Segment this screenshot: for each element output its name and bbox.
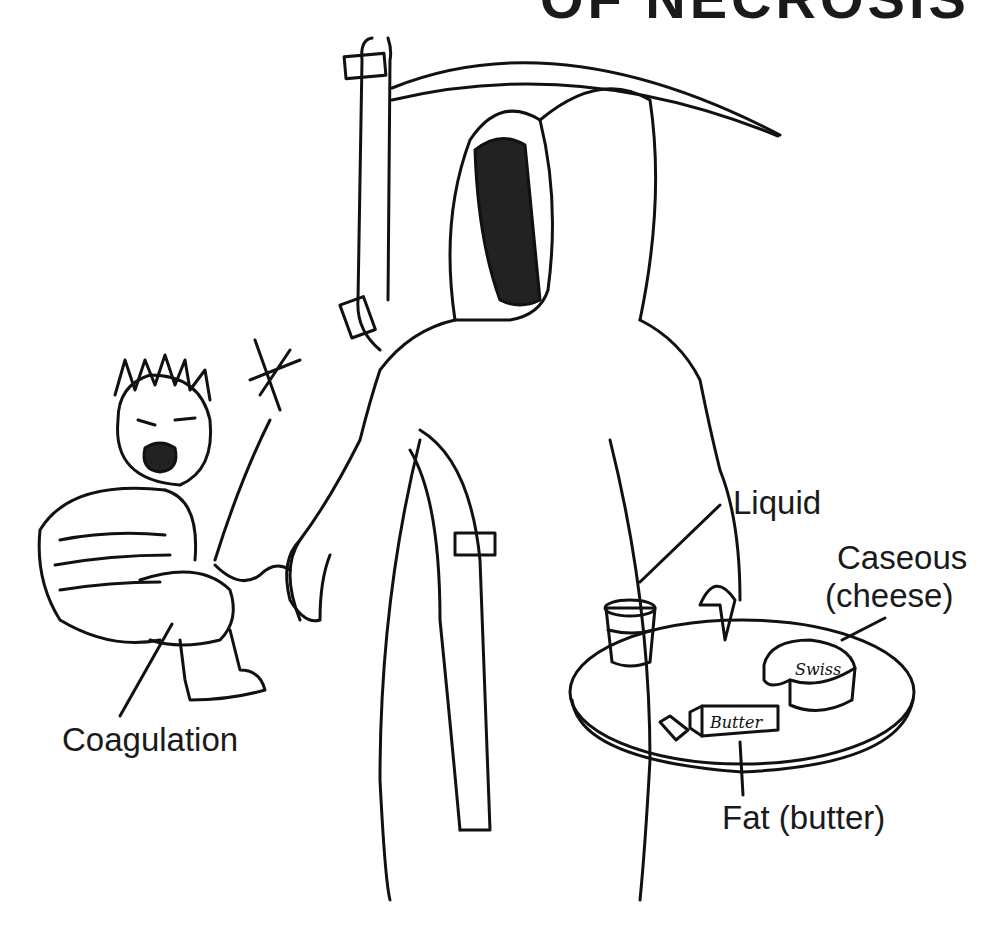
label-coagulation: Coagulation: [62, 722, 238, 758]
scythe-icon: [340, 38, 780, 350]
label-caseous-line1: Caseous: [837, 540, 967, 576]
grim-reaper: [287, 89, 740, 900]
glass-of-liquid-icon: [605, 600, 655, 666]
svg-text:Swiss: Swiss: [795, 660, 841, 679]
crying-child: [39, 340, 300, 700]
label-caseous-line2: (cheese): [825, 578, 953, 614]
svg-text:Butter: Butter: [709, 713, 763, 732]
table-with-foods: Swiss Butter: [570, 586, 914, 772]
label-fat: Fat (butter): [722, 800, 885, 836]
butter-box-icon: Butter: [690, 706, 778, 736]
swiss-cheese-icon: Swiss: [764, 640, 855, 710]
label-liquid: Liquid: [733, 485, 821, 521]
